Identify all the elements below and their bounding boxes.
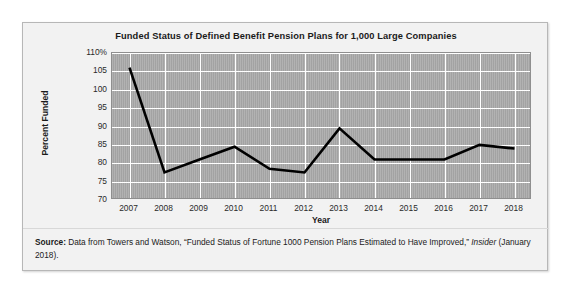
plot-area — [111, 52, 531, 199]
y-axis-tick-label: 75 — [67, 177, 107, 185]
series-line-chart — [112, 53, 531, 199]
y-axis-tick-label: 95 — [67, 103, 107, 111]
chart-region: Funded Status of Defined Benefit Pension… — [23, 23, 549, 228]
y-axis-tick-label: 90 — [67, 122, 107, 130]
y-axis-tick-label: 80 — [67, 158, 107, 166]
x-axis-title: Year — [111, 215, 531, 225]
y-axis-tick-label: 110% — [67, 48, 107, 56]
y-axis-tick-labels: 110%105100959085807570 — [63, 52, 107, 199]
y-axis-tick-label: 105 — [67, 66, 107, 74]
figure-card: Funded Status of Defined Benefit Pension… — [22, 22, 548, 271]
funded-status-series — [130, 68, 515, 173]
source-note: Source: Data from Towers and Watson, “Fu… — [35, 236, 537, 262]
y-axis-title: Percent Funded — [40, 73, 50, 173]
y-axis-tick-label: 70 — [67, 195, 107, 203]
y-axis-tick-label: 100 — [67, 85, 107, 93]
source-text-part1: Data from Towers and Watson, “Funded Sta… — [66, 237, 471, 247]
source-label: Source: — [35, 237, 66, 247]
source-publication-name: Insider — [471, 237, 496, 247]
y-axis-tick-label: 85 — [67, 140, 107, 148]
x-axis-tick-labels: 2007200820092010201120122013201420152016… — [111, 203, 531, 215]
note-divider — [23, 228, 549, 229]
x-axis-tick-label: 2018 — [491, 203, 537, 213]
chart-title: Funded Status of Defined Benefit Pension… — [23, 31, 549, 41]
